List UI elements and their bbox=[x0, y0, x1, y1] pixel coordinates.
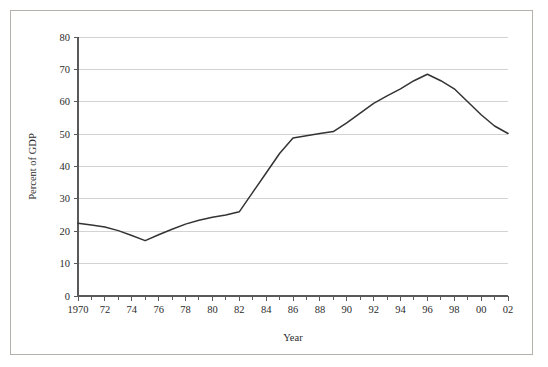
y-tick-label-30: 30 bbox=[60, 193, 71, 204]
y-axis-title: Percent of GDP bbox=[27, 133, 38, 200]
gridlines bbox=[78, 37, 508, 264]
y-tick-label-80: 80 bbox=[60, 32, 71, 43]
line-chart: 01020304050607080 1970727476788082848688… bbox=[0, 0, 548, 367]
y-tick-label-10: 10 bbox=[60, 258, 71, 269]
figure-container: 01020304050607080 1970727476788082848688… bbox=[0, 0, 548, 367]
x-axis-tick-labels: 197072747678808284868890929496980002 bbox=[68, 304, 514, 315]
x-tick-label-1996: 96 bbox=[422, 304, 433, 315]
y-tick-label-50: 50 bbox=[60, 129, 71, 140]
x-axis-title: Year bbox=[283, 332, 303, 343]
y-axis-tick-labels: 01020304050607080 bbox=[60, 32, 71, 302]
y-tick-label-0: 0 bbox=[65, 291, 70, 302]
x-tick-label-1984: 84 bbox=[261, 304, 272, 315]
y-tick-label-40: 40 bbox=[60, 161, 71, 172]
x-tick-label-1972: 72 bbox=[100, 304, 111, 315]
x-tick-label-1974: 74 bbox=[127, 304, 138, 315]
x-tick-label-1978: 78 bbox=[180, 304, 191, 315]
x-tick-label-1986: 86 bbox=[288, 304, 299, 315]
x-tick-label-1982: 82 bbox=[234, 304, 245, 315]
x-tick-label-1970: 1970 bbox=[68, 304, 89, 315]
x-axis bbox=[78, 296, 508, 301]
y-tick-label-60: 60 bbox=[60, 96, 71, 107]
y-tick-label-70: 70 bbox=[60, 64, 71, 75]
x-tick-label-1990: 90 bbox=[342, 304, 353, 315]
x-tick-label-1980: 80 bbox=[207, 304, 218, 315]
x-tick-label-1998: 98 bbox=[449, 304, 460, 315]
y-tick-label-20: 20 bbox=[60, 226, 71, 237]
series-line-0 bbox=[78, 74, 508, 240]
x-tick-label-1994: 94 bbox=[395, 304, 406, 315]
x-tick-label-1992: 92 bbox=[368, 304, 379, 315]
data-series-line bbox=[78, 74, 508, 240]
x-tick-label-1988: 88 bbox=[315, 304, 326, 315]
y-axis bbox=[74, 37, 78, 296]
x-tick-label-2002: 02 bbox=[503, 304, 514, 315]
x-tick-label-2000: 00 bbox=[476, 304, 487, 315]
x-tick-label-1976: 76 bbox=[153, 304, 164, 315]
